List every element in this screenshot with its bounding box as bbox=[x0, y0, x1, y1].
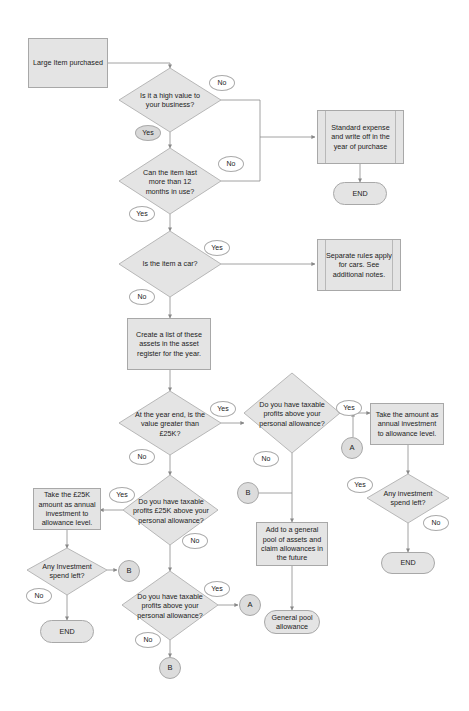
label-profits-bottom-no: No bbox=[135, 632, 161, 648]
take-25k-node: Take the £25K amount as annual investmen… bbox=[33, 488, 101, 530]
connector-b-bottom: B bbox=[159, 657, 181, 679]
decision-spend-left: Any Investment spend left? bbox=[37, 560, 97, 582]
decision-12-months: Can the item last more than 12 months in… bbox=[140, 166, 200, 198]
label-spend-right-no: No bbox=[423, 515, 449, 531]
label-car-yes: Yes bbox=[204, 240, 230, 256]
flowchart-canvas: Large Item purchased Is it a high value … bbox=[0, 0, 469, 711]
end-node-right: END bbox=[381, 552, 435, 574]
label-profits-right-no: No bbox=[253, 451, 279, 467]
end-node-left: END bbox=[40, 620, 94, 643]
car-rules-node: Separate rules apply for cars. See addit… bbox=[317, 239, 401, 291]
create-list-node: Create a list of these assets in the ass… bbox=[127, 318, 211, 370]
label-over25k-yes: Yes bbox=[210, 401, 236, 417]
standard-expense-node: Standard expense and write off in the ye… bbox=[317, 110, 404, 164]
label-over25k-no: No bbox=[129, 449, 155, 465]
take-amount-node: Take the amount as annual investment to … bbox=[370, 403, 444, 445]
general-pool-add-node: Add to a general pool of assets and clai… bbox=[256, 522, 328, 566]
label-months-no: No bbox=[218, 156, 244, 172]
label-high-value-no: No bbox=[209, 75, 235, 91]
connectors bbox=[0, 0, 469, 711]
decision-over-25k: At the year end, is the value greater th… bbox=[135, 408, 205, 440]
label-profits25k-no: No bbox=[182, 533, 208, 549]
label-profits25k-yes: Yes bbox=[109, 487, 135, 503]
label-high-value-yes: Yes bbox=[135, 125, 161, 141]
start-node: Large Item purchased bbox=[28, 38, 108, 88]
decision-car: Is the item a car? bbox=[130, 256, 210, 272]
label-profits-right-yes: Yes bbox=[336, 400, 362, 416]
label-profits-bottom-yes: Yes bbox=[204, 581, 230, 597]
connector-a-bottom: A bbox=[239, 594, 261, 616]
connector-b-mid: B bbox=[237, 482, 259, 504]
decision-profits-bottom: Do you have taxable profits above your p… bbox=[134, 585, 206, 627]
label-spend-left-no: No bbox=[26, 588, 52, 604]
label-car-no: No bbox=[129, 289, 155, 305]
label-spend-right-yes: Yes bbox=[347, 477, 373, 493]
decision-high-value: Is it a high value to your business? bbox=[140, 88, 200, 112]
decision-spend-right: Any investment spend left? bbox=[378, 487, 438, 509]
connector-a-right: A bbox=[341, 437, 363, 459]
decision-profits-25k: Do you have taxable profits £25K above y… bbox=[132, 490, 210, 532]
label-months-yes: Yes bbox=[129, 206, 155, 222]
decision-profits-right: Do you have taxable profits above your p… bbox=[257, 392, 327, 436]
end-node-top: END bbox=[333, 182, 387, 205]
connector-b-left: B bbox=[118, 560, 140, 582]
general-pool-node: General pool allowance bbox=[264, 610, 320, 634]
